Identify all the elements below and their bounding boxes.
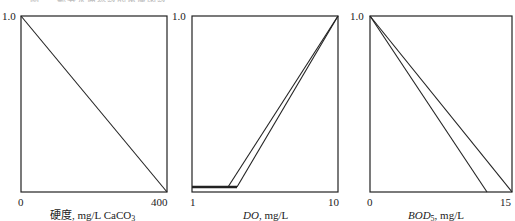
y-tick-max: 1.0 — [172, 10, 186, 22]
panel-bod5: 1.0 0 15 BOD5, mg/L — [350, 10, 512, 221]
series-upper-bound — [237, 16, 338, 187]
x-tick-max: 15 — [500, 196, 512, 208]
y-tick-max: 1.0 — [2, 10, 16, 22]
x-tick-min: 0 — [18, 196, 24, 208]
x-tick-max: 10 — [328, 196, 340, 208]
panel-do: 1.0 1 10 DO, mg/L — [172, 10, 340, 221]
x-axis-label: DO, mg/L — [242, 209, 289, 221]
plot-frame — [192, 16, 338, 192]
y-tick-max: 1.0 — [350, 10, 364, 22]
series-curve — [21, 16, 167, 192]
series-lower-bound — [370, 16, 487, 192]
series-lower-bound — [228, 16, 338, 187]
membership-function-figure: 1.0 0 400 硬度, mg/L CaCO3 1.0 1 10 DO, mg… — [0, 0, 515, 221]
x-tick-min: 1 — [190, 196, 196, 208]
x-tick-max: 400 — [151, 196, 168, 208]
series-upper-bound — [370, 16, 512, 192]
x-tick-min: 0 — [367, 196, 373, 208]
panel-hardness: 1.0 0 400 硬度, mg/L CaCO3 — [2, 10, 168, 221]
x-axis-label: BOD5, mg/L — [408, 209, 464, 221]
x-axis-label: 硬度, mg/L CaCO3 — [50, 208, 135, 221]
